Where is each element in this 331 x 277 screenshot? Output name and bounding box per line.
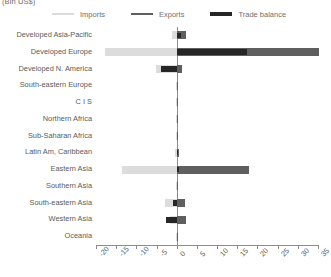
y-axis-label: Southern Asia <box>0 182 92 190</box>
x-axis-tick <box>96 245 97 249</box>
y-axis-label: C I S <box>0 98 92 106</box>
y-axis-label: Developed Asia-Pacific <box>0 31 92 39</box>
legend-swatch-exports <box>131 13 153 16</box>
bar-exports[interactable] <box>177 182 178 190</box>
plot-area <box>96 27 318 245</box>
x-axis-tick-label: 15 <box>238 246 250 258</box>
legend-item-exports[interactable]: Exports <box>131 10 184 19</box>
bar-balance[interactable] <box>166 217 176 222</box>
bar-row <box>96 27 318 44</box>
legend-swatch-balance <box>210 12 232 16</box>
bar-row <box>96 94 318 111</box>
y-axis-label: Oceania <box>0 232 92 240</box>
x-axis-tick-label: 0 <box>178 249 187 258</box>
x-axis-tick-label: 20 <box>258 246 270 258</box>
x-axis-tick <box>136 245 137 249</box>
x-axis-tick-label: -10 <box>137 244 151 258</box>
bar-row <box>96 228 318 245</box>
bar-row <box>96 61 318 78</box>
bar-exports[interactable] <box>177 98 178 106</box>
x-axis-tick <box>157 245 158 249</box>
x-axis-tick <box>257 245 258 249</box>
bar-balance[interactable] <box>177 167 179 172</box>
x-axis-tick <box>217 245 218 249</box>
bar-row <box>96 211 318 228</box>
bar-imports[interactable] <box>122 166 177 174</box>
x-axis-tick <box>177 245 178 249</box>
legend-label-imports: Imports <box>80 10 105 19</box>
bar-balance[interactable] <box>177 33 181 38</box>
bar-exports[interactable] <box>177 166 249 174</box>
bar-balance[interactable] <box>177 49 247 54</box>
x-axis-tick-label: 5 <box>198 249 207 258</box>
bar-exports[interactable] <box>177 132 178 140</box>
y-axis-label: Latin Am, Caribbean <box>0 148 92 156</box>
x-axis-tick-label: 30 <box>299 246 311 258</box>
x-axis-tick <box>116 245 117 249</box>
y-axis-label: Northern Africa <box>0 115 92 123</box>
bar-row <box>96 128 318 145</box>
x-axis-tick-label: 35 <box>319 246 331 258</box>
chart-legend: ImportsExportsTrade balance <box>52 8 320 20</box>
x-axis-tick-label: -20 <box>97 244 111 258</box>
bar-row <box>96 161 318 178</box>
bar-exports[interactable] <box>177 199 185 207</box>
bar-exports[interactable] <box>177 65 183 73</box>
x-axis-tick <box>278 245 279 249</box>
bar-row <box>96 44 318 61</box>
x-axis-tick <box>318 245 319 249</box>
x-axis-tick-label: -15 <box>117 244 131 258</box>
bar-row <box>96 111 318 128</box>
y-axis-label: Eastern Asia <box>0 165 92 173</box>
x-axis-tick-label: -5 <box>158 247 169 258</box>
bar-row <box>96 77 318 94</box>
bar-balance[interactable] <box>161 66 176 71</box>
bar-exports[interactable] <box>177 115 178 123</box>
bar-row <box>96 195 318 212</box>
x-axis-tick <box>298 245 299 249</box>
y-axis-label: Sub-Saharan Africa <box>0 132 92 140</box>
bar-exports[interactable] <box>177 233 178 241</box>
bar-row <box>96 178 318 195</box>
legend-label-exports: Exports <box>159 10 184 19</box>
legend-item-balance[interactable]: Trade balance <box>210 10 286 19</box>
legend-label-balance: Trade balance <box>238 10 286 19</box>
bar-imports[interactable] <box>105 48 177 56</box>
bar-balance[interactable] <box>177 150 178 155</box>
y-axis-label: South-eastern Europe <box>0 81 92 89</box>
chart-title: (Bln US$) <box>2 0 35 6</box>
y-axis-label: Western Asia <box>0 215 92 223</box>
legend-item-imports[interactable]: Imports <box>52 10 105 19</box>
x-axis-tick-label: 25 <box>279 246 291 258</box>
bar-exports[interactable] <box>177 82 178 90</box>
x-axis-tick-label: 10 <box>218 246 230 258</box>
y-axis-label: Developed N. America <box>0 65 92 73</box>
bar-balance[interactable] <box>173 200 176 205</box>
x-axis-tick <box>197 245 198 249</box>
y-axis-label: Developed Europe <box>0 48 92 56</box>
bar-row <box>96 144 318 161</box>
y-axis-labels: Developed Asia-PacificDeveloped EuropeDe… <box>0 27 92 245</box>
x-axis-tick <box>237 245 238 249</box>
y-axis-label: South-eastern Asia <box>0 199 92 207</box>
bar-exports[interactable] <box>177 216 187 224</box>
legend-swatch-imports <box>52 13 74 15</box>
